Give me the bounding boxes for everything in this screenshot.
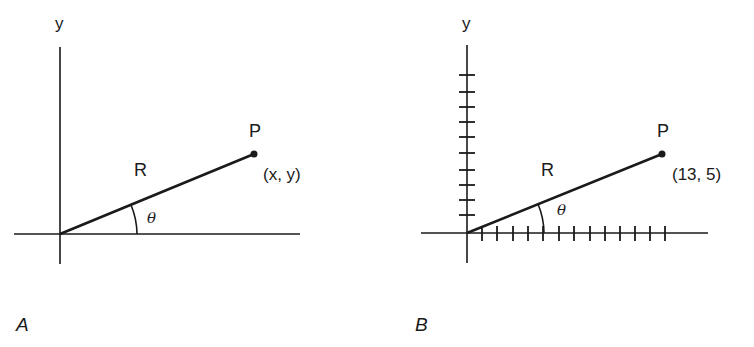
panel-a <box>14 47 300 264</box>
angle-arc <box>538 204 544 233</box>
angle-arc <box>131 205 137 234</box>
coordinate-label-a: (x, y) <box>263 166 301 183</box>
point-label-a: P <box>249 122 261 140</box>
radius-label-a: R <box>134 161 147 179</box>
radius-line <box>60 154 254 234</box>
radius-line <box>467 154 662 233</box>
coordinate-label-b: (13, 5) <box>672 166 721 183</box>
y-axis-label-b: y <box>462 15 471 32</box>
panel-label-b: B <box>415 315 428 334</box>
angle-label-a: θ <box>147 211 156 226</box>
point-p-dot <box>251 151 258 158</box>
polar-coordinate-diagram <box>0 0 754 347</box>
y-axis-label-a: y <box>55 15 64 32</box>
panel-b <box>421 45 708 263</box>
point-label-b: P <box>657 122 669 140</box>
angle-label-b: θ <box>557 203 566 218</box>
radius-label-b: R <box>541 161 554 179</box>
panel-label-a: A <box>16 315 29 334</box>
point-p-dot <box>659 151 666 158</box>
